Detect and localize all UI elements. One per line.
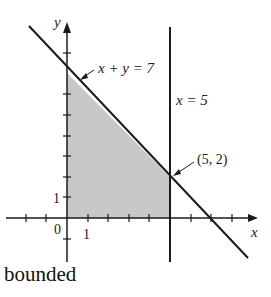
y-tick-label: 1: [53, 191, 60, 206]
x-axis-arrow-icon: [248, 214, 258, 222]
point-label: (5, 2): [197, 152, 228, 168]
line2-label: x = 5: [175, 92, 208, 108]
line1-label: x + y = 7: [97, 60, 156, 76]
label-arrow-icon: [80, 73, 88, 80]
caption: bounded: [4, 262, 76, 287]
feasible-region-diagram: y x 0 1 1 x + y = 7 x = 5 (5, 2): [0, 0, 271, 297]
point-arrow-icon: [173, 169, 181, 176]
y-axis-label: y: [52, 14, 61, 30]
x-tick-label: 1: [83, 227, 90, 242]
shaded-region: [67, 73, 170, 218]
origin-label: 0: [54, 222, 61, 237]
y-axis-arrow-icon: [63, 22, 71, 33]
x-axis-label: x: [250, 224, 258, 240]
